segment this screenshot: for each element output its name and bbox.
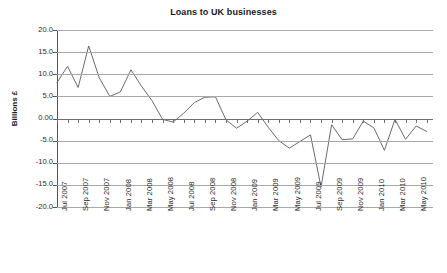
x-axis-tick-mark	[99, 119, 100, 123]
x-axis-tick-mark	[279, 119, 280, 123]
y-axis-tick-label: -10.0	[7, 157, 53, 166]
x-axis-tick-mark	[131, 119, 132, 123]
x-axis-tick-label: Nov 2008	[229, 178, 238, 211]
chart-title: Loans to UK businesses	[0, 7, 447, 17]
x-axis-tick-mark	[215, 119, 216, 123]
x-axis-tick-label: Sep 2009	[335, 178, 344, 211]
x-axis-tick-mark	[226, 119, 227, 123]
y-axis-tick-label: 5.0	[7, 91, 53, 100]
x-axis-tick-label: May 2009	[293, 177, 302, 211]
chart-container: Loans to UK businesses Billions £ 20.015…	[0, 0, 447, 273]
x-axis-tick-mark	[321, 119, 322, 123]
x-axis-tick-label: Jul 2009	[314, 181, 323, 211]
x-axis-tick-mark	[268, 119, 269, 123]
x-axis-tick-mark	[194, 119, 195, 123]
x-axis-tick-mark	[205, 119, 206, 123]
y-axis-tick-label: -5.0	[7, 135, 53, 144]
y-axis-tick-labels: 20.015.010.05.00.00-5.0-10.0-15.0-20.0	[5, 30, 53, 207]
y-axis-tick-mark	[53, 207, 57, 208]
x-axis-tick-mark	[184, 119, 185, 123]
y-axis-tick-mark	[53, 52, 57, 53]
x-axis-tick-mark	[289, 119, 290, 123]
x-axis-tick-label: Jan 2010	[377, 179, 386, 211]
x-axis-tick-mark	[395, 119, 396, 123]
y-axis-tick-mark	[53, 96, 57, 97]
y-axis-tick-label: 0.00	[7, 113, 53, 122]
y-axis-tick-label: -15.0	[7, 179, 53, 188]
x-axis-tick-mark	[374, 119, 375, 123]
gridline	[57, 119, 433, 120]
x-axis-tick-mark	[406, 119, 407, 123]
x-axis-tick-label: Jul 2007	[60, 181, 69, 211]
x-axis-tick-mark	[342, 119, 343, 123]
y-axis-tick-label: -20.0	[7, 202, 53, 211]
gridline	[57, 163, 433, 164]
x-axis-tick-mark	[247, 119, 248, 123]
x-axis-tick-mark	[89, 119, 90, 123]
x-axis-tick-mark	[163, 119, 164, 123]
x-axis-tick-label: Mar 2010	[398, 178, 407, 211]
gridline	[57, 74, 433, 75]
x-axis-tick-mark	[120, 119, 121, 123]
x-axis-tick-label: Sep 2008	[208, 178, 217, 211]
y-axis-tick-mark	[53, 74, 57, 75]
x-axis-tick-mark	[152, 119, 153, 123]
y-axis-tick-mark	[53, 30, 57, 31]
x-axis-tick-mark	[363, 119, 364, 123]
x-axis-tick-label: May 2010	[419, 177, 428, 211]
x-axis-tick-label: Jul 2008	[187, 181, 196, 211]
y-axis-tick-mark	[53, 163, 57, 164]
x-axis-tick-mark	[384, 119, 385, 123]
x-axis-tick-label: Jan 2009	[250, 179, 259, 211]
y-axis-tick-mark	[53, 141, 57, 142]
x-axis-tick-mark	[427, 119, 428, 123]
gridline	[57, 30, 433, 31]
x-axis-tick-mark	[78, 119, 79, 123]
x-axis-tick-mark	[110, 119, 111, 123]
x-axis-tick-label: May 2008	[166, 177, 175, 211]
x-axis-tick-mark	[57, 119, 58, 123]
gridline	[57, 141, 433, 142]
x-axis-tick-label: Sep 2007	[81, 178, 90, 211]
y-axis-tick-mark	[53, 119, 57, 120]
y-axis-tick-label: 10.0	[7, 69, 53, 78]
y-axis-tick-label: 20.0	[7, 25, 53, 34]
x-axis-tick-mark	[332, 119, 333, 123]
x-axis-tick-labels: Jul 2007Sep 2007Nov 2007Jan 2008Mar 2008…	[57, 209, 433, 273]
x-axis-tick-mark	[353, 119, 354, 123]
x-axis-tick-mark	[141, 119, 142, 123]
x-axis-tick-mark	[258, 119, 259, 123]
x-axis-tick-mark	[237, 119, 238, 123]
x-axis-tick-mark	[300, 119, 301, 123]
x-axis-tick-label: Mar 2009	[271, 178, 280, 211]
x-axis-tick-label: Nov 2007	[102, 178, 111, 211]
gridline	[57, 96, 433, 97]
y-axis-tick-mark	[53, 185, 57, 186]
x-axis-tick-mark	[173, 119, 174, 123]
x-axis-tick-mark	[68, 119, 69, 123]
x-axis-tick-label: Jan 2008	[124, 179, 133, 211]
y-axis-tick-label: 15.0	[7, 47, 53, 56]
x-axis-tick-mark	[310, 119, 311, 123]
gridline	[57, 52, 433, 53]
x-axis-tick-label: Mar 2008	[145, 178, 154, 211]
x-axis-tick-label: Nov 2009	[356, 178, 365, 211]
x-axis-tick-mark	[416, 119, 417, 123]
